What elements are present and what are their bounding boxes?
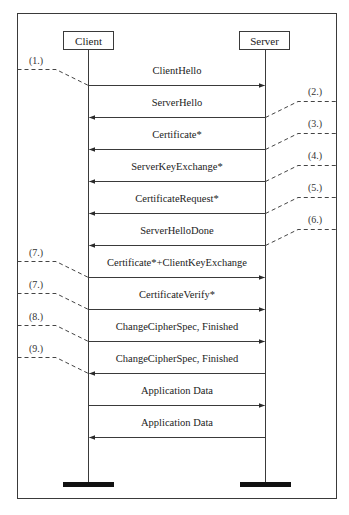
client-lifeline-end-bar xyxy=(63,482,114,487)
dashed-connector xyxy=(266,166,337,182)
message-label: Certificate*+ClientKeyExchange xyxy=(107,257,247,268)
dashed-connector xyxy=(266,134,337,150)
step-number-label: (3.) xyxy=(308,118,322,130)
message-label: Application Data xyxy=(141,417,213,428)
dashed-connector xyxy=(18,262,89,278)
step-annotation: (6.) xyxy=(266,214,337,246)
message: Certificate*+ClientKeyExchange xyxy=(89,257,265,278)
dashed-connector xyxy=(18,326,89,342)
step-annotation: (2.) xyxy=(266,86,337,118)
message-label: ClientHello xyxy=(153,65,202,76)
message: ClientHello xyxy=(89,65,265,86)
step-annotation: (7.) xyxy=(18,247,89,278)
dashed-connector xyxy=(18,70,89,86)
message-label: ServerKeyExchange* xyxy=(131,161,223,172)
step-annotation: (4.) xyxy=(266,150,337,182)
message: CertificateVerify* xyxy=(89,289,265,310)
message: Application Data xyxy=(89,385,265,406)
message-label: ServerHelloDone xyxy=(140,225,214,236)
dashed-connector xyxy=(266,102,337,118)
message-label: ChangeCipherSpec, Finished xyxy=(116,321,239,332)
message: Certificate* xyxy=(90,129,266,150)
step-number-label: (4.) xyxy=(308,150,322,162)
message-label: Application Data xyxy=(141,385,213,396)
message: Application Data xyxy=(90,417,266,438)
dashed-connector xyxy=(266,198,337,214)
dashed-connector xyxy=(18,294,89,310)
step-annotation: (9.) xyxy=(18,343,89,374)
step-annotation: (8.) xyxy=(18,311,89,342)
step-annotation: (1.) xyxy=(18,55,89,86)
message-label: CertificateVerify* xyxy=(139,289,215,300)
tls-handshake-sequence-diagram: Client Server ClientHelloServerHelloCert… xyxy=(0,0,349,515)
server-label: Server xyxy=(250,35,279,47)
step-annotation: (7.) xyxy=(18,279,89,310)
dashed-connector xyxy=(18,358,89,374)
step-number-label: (7.) xyxy=(29,279,43,291)
server-lifeline-end-bar xyxy=(240,482,291,487)
client-label: Client xyxy=(75,35,102,47)
step-number-label: (2.) xyxy=(308,86,322,98)
message-label: CertificateRequest* xyxy=(135,193,218,204)
step-annotation: (3.) xyxy=(266,118,337,150)
message-list: ClientHelloServerHelloCertificate*Server… xyxy=(89,65,266,438)
message: ServerHelloDone xyxy=(90,225,266,246)
step-number-label: (5.) xyxy=(308,182,322,194)
message-label: ServerHello xyxy=(152,97,203,108)
dashed-connector xyxy=(266,230,337,246)
step-number-label: (6.) xyxy=(308,214,322,226)
step-number-label: (9.) xyxy=(29,343,43,355)
message-label: ChangeCipherSpec, Finished xyxy=(116,353,239,364)
message: ServerKeyExchange* xyxy=(90,161,266,182)
message: CertificateRequest* xyxy=(90,193,266,214)
actor-server: Server xyxy=(240,32,292,488)
step-number-label: (7.) xyxy=(29,247,43,259)
message-label: Certificate* xyxy=(152,129,202,140)
message: ServerHello xyxy=(90,97,266,118)
step-number-label: (8.) xyxy=(29,311,43,323)
message: ChangeCipherSpec, Finished xyxy=(89,321,265,342)
step-annotation: (5.) xyxy=(266,182,337,214)
step-number-label: (1.) xyxy=(29,55,43,67)
message: ChangeCipherSpec, Finished xyxy=(90,353,266,374)
